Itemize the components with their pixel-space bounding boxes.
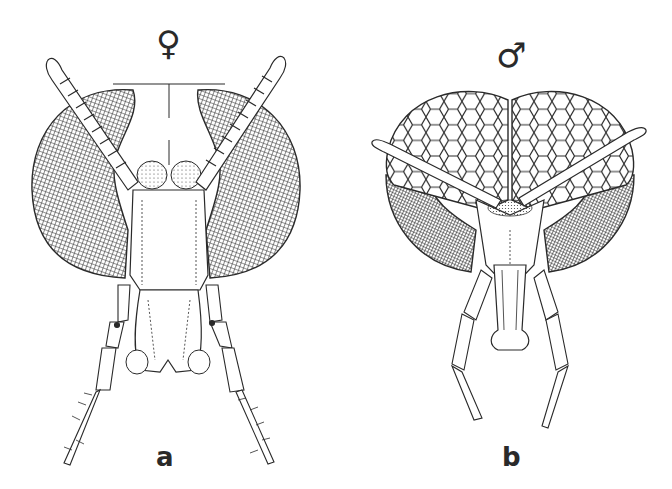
male-symbol: ♂: [496, 38, 526, 72]
panel-label-b: b: [502, 444, 521, 470]
female-symbol: ♀: [156, 26, 181, 60]
left-palp: [64, 285, 130, 465]
proboscis: [491, 265, 529, 350]
panel-label-a: a: [156, 444, 174, 470]
female-head-illustration: [0, 0, 336, 489]
right-palp: [206, 285, 274, 464]
right-palp: [534, 270, 568, 428]
panel-b-male: ♂ b: [336, 0, 672, 489]
panel-a-female: ♀ a: [0, 0, 336, 489]
left-palp: [452, 270, 492, 420]
